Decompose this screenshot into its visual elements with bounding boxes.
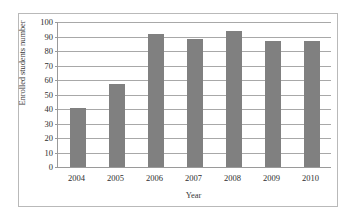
- bar-series: [58, 22, 331, 167]
- y-axis-tick-label: 60: [24, 76, 53, 85]
- y-axis-tick-label: 30: [24, 119, 53, 128]
- bar: [265, 41, 281, 167]
- y-axis-tick-labels: 1009080706050403020100: [24, 22, 53, 167]
- axis-baseline: [58, 167, 331, 168]
- y-axis-tick-label: 0: [24, 163, 53, 172]
- y-axis-tick-mark: [55, 167, 58, 168]
- y-axis-tick-label: 80: [24, 47, 53, 56]
- y-axis-tick-label: 40: [24, 105, 53, 114]
- x-axis-tick-label: 2006: [146, 172, 163, 184]
- y-axis-tick-label: 100: [24, 18, 53, 27]
- bar: [187, 39, 203, 167]
- x-axis-tick-label: 2005: [107, 172, 124, 184]
- y-axis-tick-label: 70: [24, 61, 53, 70]
- x-axis-tick-label: 2007: [185, 172, 202, 184]
- x-axis-tick-label: 2004: [68, 172, 85, 184]
- bar: [304, 41, 320, 167]
- y-axis-tick-label: 20: [24, 134, 53, 143]
- bar: [70, 108, 86, 167]
- x-axis-tick-label: 2010: [302, 172, 319, 184]
- x-axis-title: Year: [57, 189, 330, 201]
- bar: [109, 84, 125, 167]
- y-axis-tick-label: 50: [24, 90, 53, 99]
- plot-area: [57, 22, 330, 167]
- bar: [148, 34, 164, 167]
- y-axis-tick-label: 10: [24, 148, 53, 157]
- chart-figure: Enrolled students number 100908070605040…: [0, 0, 354, 222]
- bar: [226, 31, 242, 167]
- x-axis-tick-labels: 2004200520062007200820092010: [57, 172, 330, 186]
- x-axis-tick-label: 2008: [224, 172, 241, 184]
- y-axis-tick-label: 90: [24, 32, 53, 41]
- x-axis-tick-label: 2009: [263, 172, 280, 184]
